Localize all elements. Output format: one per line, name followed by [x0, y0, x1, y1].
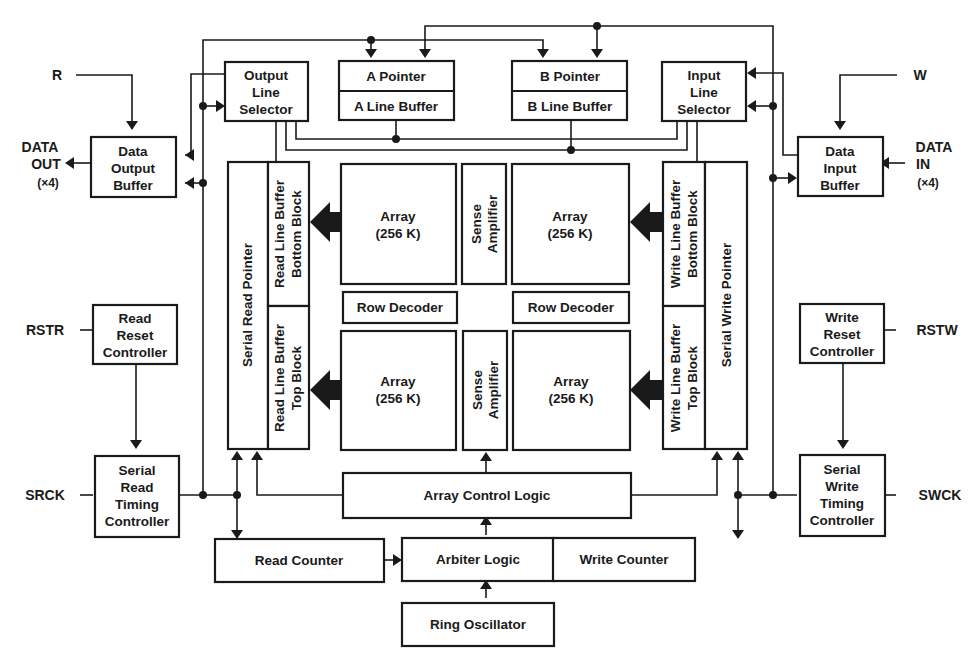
svg-text:Output: Output: [111, 161, 156, 176]
read-reset-controller-block: Read Reset Controller: [93, 305, 177, 364]
array-bottom-left-block: Array (256 K): [341, 331, 456, 450]
read-counter-block: Read Counter: [215, 539, 384, 582]
array-top-right-block: Array (256 K): [512, 164, 629, 284]
array-to-read-buffer-top-arrow: [310, 370, 341, 410]
svg-text:Read Counter: Read Counter: [255, 553, 344, 568]
pin-w: W: [913, 67, 927, 83]
svg-text:Line: Line: [690, 85, 718, 100]
pin-data-in-2: IN: [916, 156, 930, 172]
sense-amplifier-bottom-block: Sense Amplifier: [463, 331, 507, 450]
serial-write-pointer-block: Serial Write Pointer: [705, 162, 747, 449]
svg-text:Bottom Block: Bottom Block: [685, 190, 700, 278]
data-input-buffer-block: Data Input Buffer: [798, 137, 883, 196]
svg-text:(256 K): (256 K): [547, 226, 592, 241]
pin-rstw: RSTW: [916, 322, 958, 338]
output-line-selector-block: Output Line Selector: [225, 62, 308, 121]
svg-text:(256 K): (256 K): [548, 391, 593, 406]
input-line-selector-block: Input Line Selector: [662, 62, 746, 121]
svg-text:Buffer: Buffer: [113, 178, 153, 193]
array-top-left-block: Array (256 K): [341, 164, 456, 284]
write-counter-block: Write Counter: [553, 538, 695, 581]
pin-data-out-3: (×4): [37, 176, 59, 190]
svg-text:Controller: Controller: [103, 345, 168, 360]
data-output-buffer-block: Data Output Buffer: [91, 137, 176, 197]
write-line-buffer-top-block: Write Line Buffer Top Block: [663, 306, 705, 449]
write-buffer-bottom-to-array-arrow: [630, 202, 662, 242]
svg-text:Read Line Buffer: Read Line Buffer: [272, 323, 287, 432]
b-pointer-label: B Pointer: [540, 69, 601, 84]
svg-text:Write: Write: [825, 310, 859, 325]
pin-r: R: [52, 67, 62, 83]
array-control-logic-block: Array Control Logic: [343, 473, 631, 518]
svg-text:Serial Write Pointer: Serial Write Pointer: [719, 242, 734, 367]
svg-text:Write: Write: [825, 479, 859, 494]
svg-text:Data: Data: [825, 144, 855, 159]
serial-read-pointer-block: Serial Read Pointer: [228, 162, 268, 449]
write-line-buffer-bottom-block: Write Line Buffer Bottom Block: [663, 162, 705, 306]
pin-data-in-1: DATA: [916, 139, 953, 155]
svg-text:Buffer: Buffer: [820, 178, 860, 193]
b-pointer-block: B Pointer B Line Buffer: [512, 61, 627, 120]
svg-text:Array Control Logic: Array Control Logic: [424, 488, 551, 503]
read-line-buffer-top-block: Read Line Buffer Top Block: [268, 306, 309, 449]
sense-amplifier-top-block: Sense Amplifier: [462, 164, 506, 284]
svg-text:Serial: Serial: [119, 463, 156, 478]
svg-text:Read: Read: [120, 480, 153, 495]
array-to-read-buffer-bottom-arrow: [310, 202, 341, 242]
svg-text:Read: Read: [118, 311, 151, 326]
svg-text:Amplifier: Amplifier: [486, 360, 501, 419]
svg-text:Sense: Sense: [470, 370, 485, 410]
memory-block-diagram: R W DATA OUT (×4) DATA IN (×4) RSTR RSTW…: [0, 0, 977, 670]
row-decoder-right-block: Row Decoder: [513, 292, 629, 323]
a-pointer-block: A Pointer A Line Buffer: [339, 61, 454, 120]
write-reset-controller-block: Write Reset Controller: [800, 304, 884, 363]
svg-text:Array: Array: [553, 374, 589, 389]
svg-text:Top Block: Top Block: [685, 345, 700, 410]
serial-read-timing-controller-block: Serial Read Timing Controller: [95, 456, 179, 537]
arbiter-logic-block: Arbiter Logic: [402, 538, 554, 581]
pin-data-in-3: (×4): [917, 176, 939, 190]
svg-text:Arbiter Logic: Arbiter Logic: [436, 552, 520, 567]
pin-swck: SWCK: [919, 487, 962, 503]
pin-rstr: RSTR: [26, 322, 64, 338]
svg-text:Timing: Timing: [115, 497, 159, 512]
svg-text:Array: Array: [380, 209, 416, 224]
svg-text:Bottom Block: Bottom Block: [289, 190, 304, 278]
svg-text:Ring Oscillator: Ring Oscillator: [430, 617, 527, 632]
svg-text:Array: Array: [380, 374, 416, 389]
svg-text:Sense: Sense: [469, 204, 484, 244]
svg-text:Timing: Timing: [820, 496, 864, 511]
svg-text:Write Line Buffer: Write Line Buffer: [668, 179, 683, 288]
svg-text:Serial Read Pointer: Serial Read Pointer: [240, 242, 255, 367]
b-line-buffer-label: B Line Buffer: [528, 99, 613, 114]
pin-srck: SRCK: [25, 487, 65, 503]
svg-text:Controller: Controller: [105, 514, 170, 529]
svg-text:Write Counter: Write Counter: [579, 552, 669, 567]
svg-text:Row Decoder: Row Decoder: [357, 300, 444, 315]
write-buffer-top-to-array-arrow: [630, 370, 662, 410]
array-bottom-right-block: Array (256 K): [513, 331, 630, 450]
svg-text:Output: Output: [244, 68, 289, 83]
svg-text:Row Decoder: Row Decoder: [528, 300, 615, 315]
row-decoder-left-block: Row Decoder: [343, 292, 457, 323]
pin-data-out-2: OUT: [31, 156, 61, 172]
svg-text:Amplifier: Amplifier: [485, 194, 500, 253]
a-pointer-label: A Pointer: [366, 69, 426, 84]
svg-text:Line: Line: [252, 85, 280, 100]
svg-text:Serial: Serial: [824, 462, 861, 477]
serial-write-timing-controller-block: Serial Write Timing Controller: [800, 455, 885, 536]
svg-text:Write Line Buffer: Write Line Buffer: [668, 323, 683, 432]
svg-text:Controller: Controller: [810, 344, 875, 359]
svg-text:Input: Input: [824, 161, 857, 176]
svg-text:Data: Data: [118, 144, 148, 159]
pin-data-out-1: DATA: [22, 139, 59, 155]
ring-oscillator-block: Ring Oscillator: [402, 603, 554, 646]
svg-text:(256 K): (256 K): [375, 391, 420, 406]
read-line-buffer-bottom-block: Read Line Buffer Bottom Block: [268, 162, 309, 306]
svg-text:Input: Input: [688, 68, 721, 83]
svg-text:Selector: Selector: [239, 102, 293, 117]
svg-text:(256 K): (256 K): [375, 226, 420, 241]
svg-text:Selector: Selector: [677, 102, 731, 117]
svg-text:Controller: Controller: [810, 513, 875, 528]
svg-text:Top Block: Top Block: [289, 345, 304, 410]
